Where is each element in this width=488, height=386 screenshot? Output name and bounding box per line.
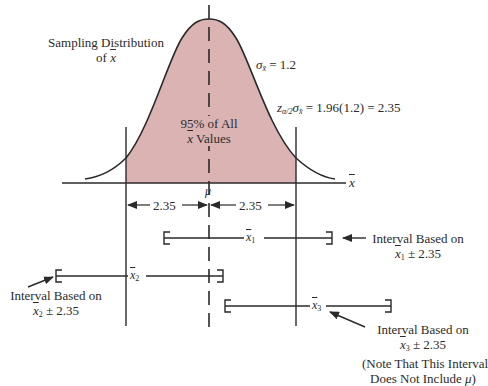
annotation-line-1: Interval Based on <box>4 288 108 303</box>
interval-2-annotation: Interval Based on x2 ± 2.35 <box>4 288 108 322</box>
mu-label: μ <box>205 184 211 199</box>
annotation-line-2: x2 ± 2.35 <box>4 303 108 322</box>
interval-3-label: x3 <box>312 298 321 316</box>
subscript: 3 <box>317 304 321 313</box>
interval-3-annotation: Interval Based on x3 ± 2.35 (Note That T… <box>362 322 484 386</box>
note-suffix: ) <box>472 371 476 386</box>
title-prefix: of <box>96 50 110 65</box>
right-half-width-label: 2.35 <box>238 198 263 213</box>
margin-of-error-label: zα/2σx̄ = 1.96(1.2) = 2.35 <box>277 100 401 119</box>
annotation-suffix: ± 2.35 <box>43 303 79 318</box>
title-line-2: of x <box>46 50 166 65</box>
interval-2-label: x2 <box>130 268 139 286</box>
sigma-label: σx̄ = 1.2 <box>256 57 296 76</box>
center-text-line-2: x Values <box>162 131 256 146</box>
subscript: 1 <box>251 236 255 245</box>
annotation-line-1: Interval Based on <box>366 231 470 246</box>
annotation-line-1: Interval Based on <box>362 322 484 337</box>
annotation-line-2: x3 ± 2.35 <box>362 337 484 356</box>
note-prefix: Does Not Include <box>370 371 465 386</box>
annotation-line-2: x1 ± 2.35 <box>366 246 470 265</box>
interval-2 <box>56 270 223 282</box>
note-line-1: (Note That This Interval <box>362 356 484 371</box>
annotation-suffix: ± 2.35 <box>410 337 446 352</box>
x-axis-label: x <box>349 175 355 190</box>
note-line-2: Does Not Include μ) <box>362 371 484 386</box>
interval-2-pointer-arrow <box>28 277 53 287</box>
center-percent-label: 95% of All x Values <box>162 116 256 146</box>
sigma-value: = 1.2 <box>266 57 296 72</box>
interval-1-label: x1 <box>246 230 255 248</box>
alpha-subscript: α/2 <box>282 107 292 116</box>
center-text-line-1: 95% of All <box>162 116 256 131</box>
margin-value: = 1.96(1.2) = 2.35 <box>302 100 400 115</box>
sampling-distribution-label: Sampling Distribution of x <box>46 35 166 65</box>
x-bar-symbol: x <box>110 50 116 65</box>
annotation-suffix: ± 2.35 <box>405 246 441 261</box>
left-half-width-label: 2.35 <box>152 198 177 213</box>
title-line-1: Sampling Distribution <box>46 35 166 50</box>
interval-3 <box>225 300 391 312</box>
subscript: 2 <box>135 274 139 283</box>
interval-3-pointer-arrow <box>330 312 365 327</box>
interval-1-annotation: Interval Based on x1 ± 2.35 <box>366 231 470 265</box>
center-text-suffix: Values <box>193 131 231 146</box>
